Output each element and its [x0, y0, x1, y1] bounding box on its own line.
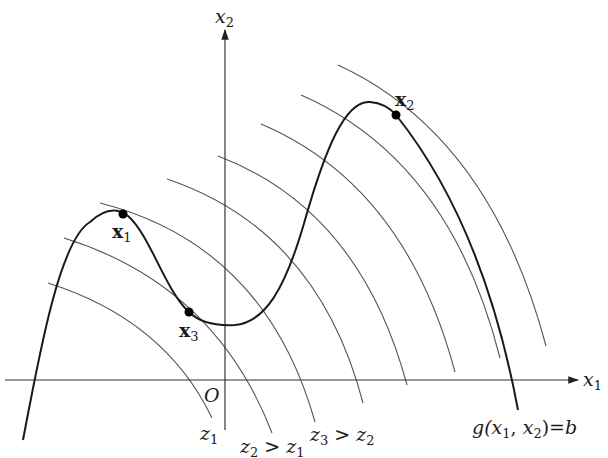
z3-rhs: z: [356, 423, 366, 445]
contour-arc-4: [167, 179, 363, 403]
constraint-label-sep: ,: [511, 416, 523, 438]
point-label-x2: x2: [395, 90, 415, 112]
origin-label: O: [204, 386, 220, 405]
constraint-label-b-sub: 2: [533, 426, 541, 441]
z2-main: z: [240, 435, 250, 457]
constraint-label-eq: =: [549, 416, 565, 438]
z2-sub: 2: [250, 445, 258, 458]
point-label-x1: x1: [112, 222, 132, 244]
constraint-curve: [23, 102, 518, 440]
contour-arc-2: [64, 238, 272, 433]
y-axis-label: x2: [215, 7, 234, 29]
point-label-x1-main: x: [112, 220, 123, 242]
x-axis-label-sub: 1: [594, 378, 602, 393]
z1-main: z: [200, 422, 210, 444]
constraint-label-rhs: b: [565, 416, 577, 438]
point-label-x3: x3: [179, 321, 199, 343]
point-x1: [119, 210, 128, 219]
point-label-x1-sub: 1: [123, 230, 131, 245]
constraint-label-a-sub: 1: [502, 426, 510, 441]
origin-label-text: O: [204, 384, 220, 406]
y-axis-label-sub: 2: [226, 15, 234, 30]
z3-rhs-sub: 2: [366, 433, 374, 448]
diagram-canvas: [0, 0, 608, 458]
contour-arc-8: [338, 65, 546, 346]
y-axis-label-main: x: [215, 5, 226, 27]
x-axis-label-main: x: [583, 368, 594, 390]
z2-rhs-sub: 1: [296, 445, 304, 458]
constraint-label-b: x: [523, 416, 534, 438]
point-label-x2-sub: 2: [406, 98, 414, 113]
x-axis-label: x1: [583, 370, 602, 392]
constraint-label: g(x1, x2)=b: [472, 418, 577, 440]
contour-label-z1: z1: [200, 424, 218, 446]
constraint-label-a: x: [492, 416, 503, 438]
contour-label-z2: z2 > z1: [240, 437, 305, 458]
contour-arc-6: [261, 124, 455, 372]
constraint-label-close: ): [542, 416, 549, 438]
contour-label-z3: z3 > z2: [310, 425, 375, 447]
point-label-x2-main: x: [395, 88, 406, 110]
contour-arc-1: [48, 283, 212, 418]
z3-relation: >: [334, 423, 350, 445]
z3-main: z: [310, 423, 320, 445]
point-label-x3-sub: 3: [190, 329, 198, 344]
constraint-label-g: g(: [472, 416, 492, 438]
point-x3: [185, 308, 194, 317]
z2-rhs: z: [286, 435, 296, 457]
axes: [5, 30, 578, 430]
point-label-x3-main: x: [179, 319, 190, 341]
contour-arcs: [48, 65, 546, 433]
z3-sub: 3: [320, 433, 328, 448]
contour-arc-5: [218, 156, 407, 385]
z1-sub: 1: [210, 432, 218, 447]
z2-relation: >: [264, 435, 280, 457]
